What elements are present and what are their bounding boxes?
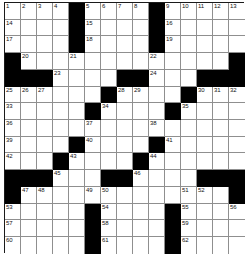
crossword-open-cell[interactable] [101,137,117,154]
crossword-open-cell[interactable] [37,153,53,170]
crossword-open-cell[interactable] [117,103,133,120]
crossword-open-cell[interactable]: 19 [165,36,181,53]
crossword-open-cell[interactable]: 38 [149,120,165,137]
crossword-open-cell[interactable] [197,137,213,154]
crossword-open-cell[interactable]: 17 [5,36,21,53]
crossword-open-cell[interactable]: 57 [5,220,21,237]
crossword-open-cell[interactable] [85,70,101,87]
crossword-open-cell[interactable] [37,53,53,70]
crossword-open-cell[interactable] [53,187,69,204]
crossword-open-cell[interactable]: 15 [85,20,101,37]
crossword-open-cell[interactable] [37,20,53,37]
crossword-open-cell[interactable] [229,36,245,53]
crossword-open-cell[interactable]: 55 [181,204,197,221]
crossword-open-cell[interactable]: 35 [181,103,197,120]
crossword-open-cell[interactable] [181,53,197,70]
crossword-open-cell[interactable] [213,153,229,170]
crossword-open-cell[interactable] [117,153,133,170]
crossword-open-cell[interactable] [85,153,101,170]
crossword-open-cell[interactable] [149,237,165,254]
crossword-open-cell[interactable] [229,137,245,154]
crossword-open-cell[interactable]: 56 [229,204,245,221]
crossword-open-cell[interactable] [85,170,101,187]
crossword-open-cell[interactable] [213,53,229,70]
crossword-open-cell[interactable] [149,187,165,204]
crossword-open-cell[interactable] [133,103,149,120]
crossword-open-cell[interactable] [69,103,85,120]
crossword-open-cell[interactable] [101,36,117,53]
crossword-open-cell[interactable] [133,187,149,204]
crossword-open-cell[interactable]: 12 [213,3,229,20]
crossword-open-cell[interactable] [69,120,85,137]
crossword-open-cell[interactable] [133,20,149,37]
crossword-open-cell[interactable] [149,170,165,187]
crossword-open-cell[interactable] [69,70,85,87]
crossword-open-cell[interactable] [133,220,149,237]
crossword-open-cell[interactable]: 6 [101,3,117,20]
crossword-open-cell[interactable] [37,220,53,237]
crossword-open-cell[interactable]: 23 [53,70,69,87]
crossword-open-cell[interactable] [197,20,213,37]
crossword-open-cell[interactable] [37,120,53,137]
crossword-open-cell[interactable] [69,220,85,237]
crossword-open-cell[interactable]: 25 [5,87,21,104]
crossword-open-cell[interactable]: 40 [85,137,101,154]
crossword-open-cell[interactable] [37,36,53,53]
crossword-open-cell[interactable]: 44 [149,153,165,170]
crossword-open-cell[interactable] [85,87,101,104]
crossword-open-cell[interactable] [165,170,181,187]
crossword-open-cell[interactable]: 21 [69,53,85,70]
crossword-open-cell[interactable]: 49 [85,187,101,204]
crossword-open-cell[interactable]: 27 [37,87,53,104]
crossword-open-cell[interactable] [213,36,229,53]
crossword-open-cell[interactable]: 43 [69,153,85,170]
crossword-open-cell[interactable]: 20 [21,53,37,70]
crossword-open-cell[interactable] [101,53,117,70]
crossword-open-cell[interactable]: 34 [101,103,117,120]
crossword-open-cell[interactable] [21,237,37,254]
crossword-open-cell[interactable] [21,220,37,237]
crossword-open-cell[interactable] [213,103,229,120]
crossword-open-cell[interactable] [213,120,229,137]
crossword-open-cell[interactable]: 51 [181,187,197,204]
crossword-open-cell[interactable]: 47 [21,187,37,204]
crossword-open-cell[interactable] [165,87,181,104]
crossword-open-cell[interactable] [53,137,69,154]
crossword-open-cell[interactable] [53,204,69,221]
crossword-open-cell[interactable]: 11 [197,3,213,20]
crossword-open-cell[interactable] [181,153,197,170]
crossword-open-cell[interactable]: 16 [165,20,181,37]
crossword-open-cell[interactable] [149,220,165,237]
crossword-open-cell[interactable] [69,204,85,221]
crossword-open-cell[interactable] [117,137,133,154]
crossword-open-cell[interactable] [133,204,149,221]
crossword-open-cell[interactable] [197,220,213,237]
crossword-open-cell[interactable]: 7 [117,3,133,20]
crossword-open-cell[interactable] [69,170,85,187]
crossword-open-cell[interactable]: 59 [181,220,197,237]
crossword-open-cell[interactable] [37,237,53,254]
crossword-open-cell[interactable] [149,103,165,120]
crossword-open-cell[interactable] [37,204,53,221]
crossword-open-cell[interactable] [181,36,197,53]
crossword-open-cell[interactable]: 54 [101,204,117,221]
crossword-open-cell[interactable] [53,103,69,120]
crossword-open-cell[interactable] [37,137,53,154]
crossword-open-cell[interactable] [69,87,85,104]
crossword-open-cell[interactable] [21,36,37,53]
crossword-open-cell[interactable] [165,70,181,87]
crossword-open-cell[interactable] [53,36,69,53]
crossword-open-cell[interactable] [197,36,213,53]
crossword-open-cell[interactable] [197,103,213,120]
crossword-open-cell[interactable] [101,20,117,37]
crossword-open-cell[interactable]: 4 [53,3,69,20]
crossword-open-cell[interactable] [181,120,197,137]
crossword-open-cell[interactable]: 36 [5,120,21,137]
crossword-open-cell[interactable] [213,187,229,204]
crossword-open-cell[interactable] [213,137,229,154]
crossword-open-cell[interactable] [229,120,245,137]
crossword-open-cell[interactable] [117,20,133,37]
crossword-open-cell[interactable]: 3 [37,3,53,20]
crossword-open-cell[interactable] [229,237,245,254]
crossword-open-cell[interactable]: 1 [5,3,21,20]
